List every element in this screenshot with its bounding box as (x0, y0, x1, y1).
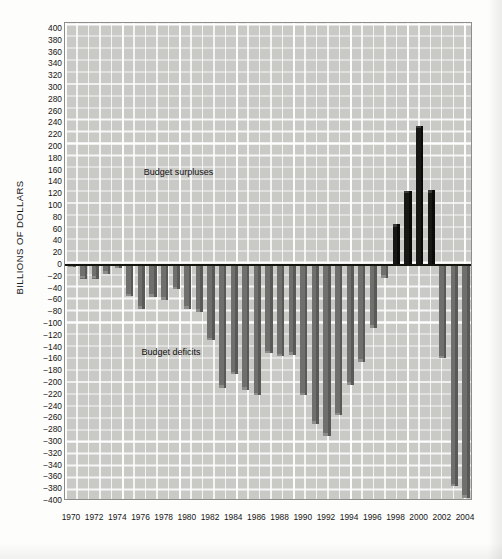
bar-side-face (177, 265, 180, 289)
page-edge-shading-bottom (0, 543, 502, 559)
bar-side-face (467, 265, 470, 498)
bar-side-face (432, 190, 435, 265)
x-tick-label: 2004 (445, 512, 485, 522)
bar-1995 (358, 265, 365, 362)
bar-1997 (381, 265, 388, 278)
y-tick-label: −160 (28, 354, 62, 362)
bar-1978 (161, 265, 168, 300)
y-tick-label: 260 (28, 107, 62, 115)
bar-side-face (131, 265, 134, 296)
y-tick-label: −20 (28, 272, 62, 280)
bar-1996 (370, 265, 377, 328)
bar-2000 (416, 126, 423, 265)
y-tick-label: −360 (28, 472, 62, 480)
y-tick-label: 120 (28, 189, 62, 197)
bar-side-face (200, 265, 203, 312)
bar-side-face (409, 191, 412, 265)
y-tick-label: −100 (28, 319, 62, 327)
bar-1974 (115, 265, 122, 269)
y-tick-label: −300 (28, 437, 62, 445)
y-tick-label: 360 (28, 48, 62, 56)
y-tick-label: −80 (28, 307, 62, 315)
bar-1990 (300, 265, 307, 395)
bar-side-face (212, 265, 215, 341)
bar-side-face (85, 265, 88, 279)
y-tick-label: −180 (28, 366, 62, 374)
y-tick-label: −400 (28, 496, 62, 504)
bar-side-face (340, 265, 343, 415)
y-tick-label: −340 (28, 461, 62, 469)
bar-side-face (96, 265, 99, 279)
y-tick-label: 160 (28, 166, 62, 174)
bar-side-face (316, 265, 319, 424)
bar-side-face (73, 265, 76, 267)
y-tick-label: −40 (28, 284, 62, 292)
y-tick-label: 220 (28, 130, 62, 138)
bar-1981 (196, 265, 203, 312)
bar-side-face (282, 265, 285, 356)
y-tick-label: −380 (28, 484, 62, 492)
bar-1985 (242, 265, 249, 390)
bar-1972 (92, 265, 99, 279)
bar-1982 (207, 265, 214, 341)
y-tick-label: −260 (28, 413, 62, 421)
bar-1975 (126, 265, 133, 296)
bar-1993 (335, 265, 342, 415)
bar-side-face (108, 265, 111, 274)
bar-1980 (184, 265, 191, 309)
bar-1976 (138, 265, 145, 309)
y-tick-label: 0 (28, 260, 62, 268)
bar-side-face (142, 265, 145, 309)
bar-1971 (80, 265, 87, 279)
bar-1986 (254, 265, 261, 395)
y-tick-label: 60 (28, 225, 62, 233)
bar-side-face (328, 265, 331, 436)
bar-side-face (351, 265, 354, 385)
y-tick-label: 200 (28, 142, 62, 150)
bar-1989 (289, 265, 296, 355)
budget-surplus-deficit-chart: BILLIONS OF DOLLARS 40038036034032030028… (0, 0, 502, 559)
bar-side-face (119, 265, 122, 269)
bar-side-face (235, 265, 238, 374)
x-axis-tick-labels: 1970197219741976197819801982198419861988… (64, 512, 472, 532)
y-tick-label: 240 (28, 118, 62, 126)
annotation-label: Budget deficits (142, 347, 201, 357)
y-tick-label: 280 (28, 95, 62, 103)
annotation-label: Budget surpluses (144, 167, 214, 177)
bar-side-face (270, 265, 273, 354)
page-edge-shading-right (488, 0, 502, 559)
bar-1983 (219, 265, 226, 388)
y-tick-label: −140 (28, 343, 62, 351)
y-tick-label: −280 (28, 425, 62, 433)
bar-2003 (451, 265, 458, 486)
bar-side-face (397, 224, 400, 265)
y-tick-label: 380 (28, 36, 62, 44)
bar-1977 (149, 265, 156, 297)
bar-side-face (189, 265, 192, 309)
bar-1994 (347, 265, 354, 385)
bar-side-face (293, 265, 296, 355)
y-axis-title: BILLIONS OF DOLLARS (14, 133, 25, 343)
bar-1999 (404, 191, 411, 265)
y-tick-label: 20 (28, 248, 62, 256)
bar-side-face (247, 265, 250, 390)
y-tick-label: −220 (28, 390, 62, 398)
bar-1979 (173, 265, 180, 289)
plot-area: Budget surplusesBudget deficits (64, 22, 472, 500)
bar-side-face (421, 126, 424, 265)
bar-1998 (393, 224, 400, 265)
y-tick-label: 340 (28, 59, 62, 67)
bar-side-face (305, 265, 308, 395)
bar-1991 (312, 265, 319, 424)
y-tick-label: −60 (28, 295, 62, 303)
bar-side-face (386, 265, 389, 278)
bar-1992 (323, 265, 330, 436)
bar-1973 (103, 265, 110, 274)
bar-side-face (154, 265, 157, 297)
bar-side-face (224, 265, 227, 388)
y-tick-label: 140 (28, 177, 62, 185)
y-axis-tick-labels: 4003803603403203002802602402202001801601… (28, 22, 62, 500)
bar-side-face (455, 265, 458, 486)
bar-1987 (265, 265, 272, 354)
bar-2002 (439, 265, 446, 358)
